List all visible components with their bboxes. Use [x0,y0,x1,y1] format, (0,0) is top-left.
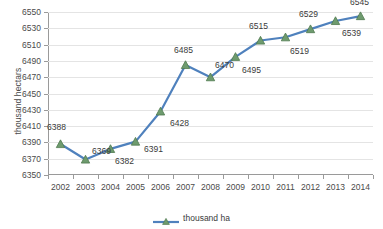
legend-label: thousand ha [183,213,230,223]
data-point-marker [156,107,164,115]
x-axis-tick-label: 2003 [76,182,95,192]
data-point-label: 6428 [170,118,189,128]
data-point-label: 6485 [174,45,193,55]
x-axis-tick [123,175,124,179]
y-axis-tick-label: 6550 [22,7,41,17]
y-axis-tick-label: 6390 [22,137,41,147]
y-axis-tick-label: 6430 [22,105,41,115]
y-axis-tick-label: 6530 [22,23,41,33]
legend-marker-icon [153,213,179,223]
x-axis-tick [348,175,349,179]
data-point-label: 6470 [215,60,234,70]
data-point-marker [181,61,189,69]
y-axis-tick-label: 6490 [22,56,41,66]
data-point-label: 6369 [92,146,111,156]
x-axis-tick [98,175,99,179]
data-point-label: 6382 [115,156,134,166]
data-point-label: 6388 [47,122,66,132]
x-axis-tick-label: 2012 [301,182,320,192]
data-point-label: 6545 [350,0,369,7]
x-axis-tick [198,175,199,179]
data-point-label: 6539 [342,28,361,38]
data-point-label: 6529 [299,9,318,19]
x-axis-tick [173,175,174,179]
y-axis-tick-label: 6410 [22,121,41,131]
chart-legend: thousand ha [0,213,383,223]
x-axis-tick-label: 2008 [201,182,220,192]
data-point-label: 6519 [290,46,309,56]
y-axis-tick-label: 6510 [22,40,41,50]
x-axis-tick-label: 2011 [276,182,294,192]
x-axis-tick [73,175,74,179]
x-axis-tick-label: 2004 [101,182,120,192]
x-axis-tick [273,175,274,179]
x-axis-tick-label: 2006 [151,182,170,192]
x-axis-tick [148,175,149,179]
x-axis-tick-label: 2013 [326,182,345,192]
data-point-label: 6515 [249,21,268,31]
y-axis-tick-label: 6450 [22,89,41,99]
x-axis-tick-label: 2014 [351,182,370,192]
x-axis-tick-label: 2009 [226,182,245,192]
series-line [61,16,361,159]
x-axis-tick [373,175,374,179]
x-axis-tick [248,175,249,179]
x-axis-tick [48,175,49,179]
plot-area: 6350637063906410643064506470649065106530… [48,12,373,175]
x-axis-tick-label: 2002 [51,182,70,192]
y-axis-tick-label: 6350 [22,170,41,180]
data-point-label: 6391 [144,144,163,154]
data-point-label: 6495 [242,65,261,75]
line-chart: thousand hectars 63506370639064106430645… [0,0,383,229]
x-axis-tick [223,175,224,179]
y-axis-tick-label: 6370 [22,154,41,164]
x-axis-tick-label: 2005 [126,182,145,192]
y-axis-tick-label: 6470 [22,72,41,82]
x-axis-tick-label: 2010 [251,182,270,192]
x-axis-tick-label: 2007 [176,182,195,192]
x-axis-tick [298,175,299,179]
data-point-marker [56,140,64,148]
x-axis-tick [323,175,324,179]
